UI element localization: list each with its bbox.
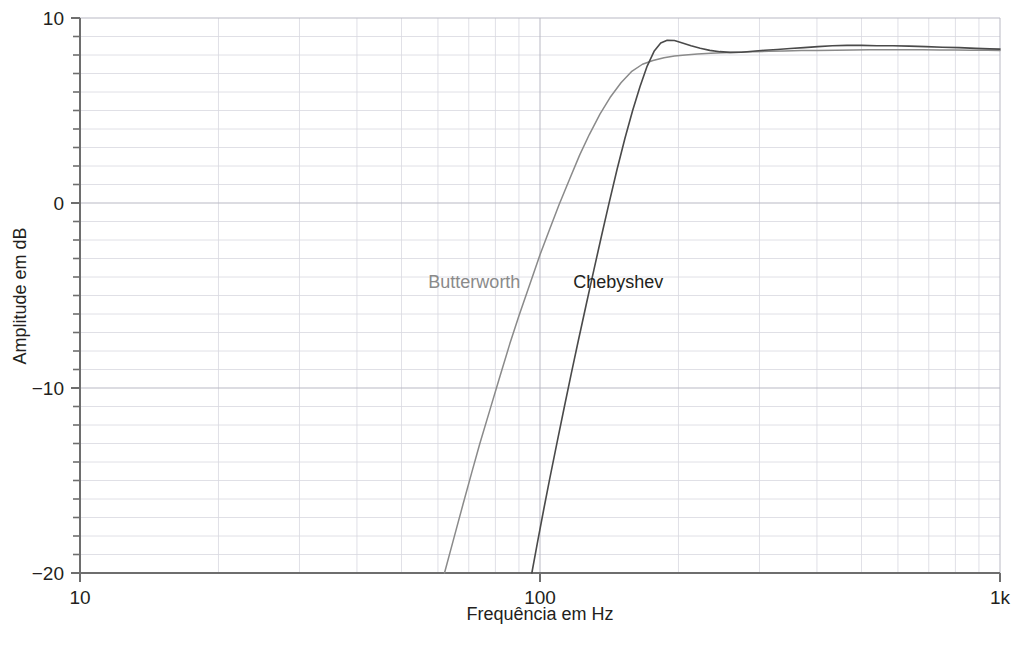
y-tick-label: 10	[43, 8, 64, 29]
chart-background	[0, 0, 1023, 647]
y-tick-label: −20	[32, 563, 64, 584]
x-axis-title: Frequência em Hz	[466, 604, 613, 624]
butterworth-label: Butterworth	[428, 272, 520, 292]
x-tick-label: 1k	[990, 587, 1011, 608]
x-tick-label: 10	[69, 587, 90, 608]
chart-canvas: 100−10−20 101001k ButterworthChebyshev A…	[0, 0, 1023, 647]
y-tick-label: −10	[32, 378, 64, 399]
filter-response-chart: 100−10−20 101001k ButterworthChebyshev A…	[0, 0, 1023, 647]
y-tick-label: 0	[53, 193, 64, 214]
y-axis-title: Amplitude em dB	[10, 227, 30, 364]
chebyshev-label: Chebyshev	[573, 272, 663, 292]
